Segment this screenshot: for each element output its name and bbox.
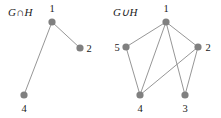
graph-figure: 124G∩H15243G∪H (0, 0, 221, 118)
edge-intersection-1-4 (24, 22, 52, 95)
edge-union-1-3 (166, 22, 185, 95)
node-union-3[interactable] (181, 91, 188, 98)
graph-union: 15243G∪H (113, 3, 211, 114)
node-label-union-2: 2 (205, 42, 210, 53)
node-label-intersection-1: 1 (49, 3, 54, 14)
node-union-1[interactable] (162, 18, 169, 25)
node-label-union-1: 1 (163, 3, 168, 14)
graph-intersection: 124G∩H (8, 3, 92, 114)
graph-union-edges (126, 22, 198, 95)
edge-union-1-2 (166, 22, 198, 47)
node-label-union-5: 5 (114, 42, 119, 53)
node-label-union-4: 4 (137, 103, 143, 114)
graph-union-nodes: 15243 (114, 3, 210, 114)
edge-union-2-3 (185, 47, 198, 95)
node-intersection-4[interactable] (20, 91, 27, 98)
graph-figure-canvas: 124G∩H15243G∪H (0, 0, 221, 118)
node-intersection-2[interactable] (76, 44, 83, 51)
edge-intersection-1-2 (52, 22, 80, 48)
node-union-4[interactable] (136, 91, 143, 98)
graph-intersection-edges (24, 22, 80, 95)
graph-caption-union: G∪H (113, 6, 139, 18)
node-label-union-3: 3 (182, 103, 187, 114)
edge-union-5-4 (126, 47, 140, 95)
node-label-intersection-4: 4 (21, 103, 27, 114)
graph-caption-intersection: G∩H (8, 6, 33, 18)
edge-union-1-5 (126, 22, 166, 47)
node-union-2[interactable] (194, 43, 201, 50)
node-intersection-1[interactable] (48, 18, 55, 25)
graph-intersection-nodes: 124 (20, 3, 91, 114)
node-label-intersection-2: 2 (86, 43, 91, 54)
node-union-5[interactable] (122, 43, 129, 50)
